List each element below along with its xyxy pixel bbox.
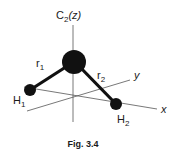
atom-label-h1: H1 [13,94,26,109]
bond-label-r2: r2 [97,69,106,84]
hydrogen-atom-1 [24,84,36,96]
water-molecule-diagram: C2(z) r1 r2 y x H1 H2 Fig. 3.4 [0,0,179,152]
z-axis-label: C2(z) [56,9,82,24]
oxygen-atom [62,50,86,74]
y-axis-label: y [133,69,141,81]
bond-label-r1: r1 [36,57,45,72]
x-axis-label: x [160,103,167,115]
figure-caption: Fig. 3.4 [67,139,98,149]
hydrogen-atom-2 [110,98,122,110]
atom-label-h2: H2 [117,113,130,128]
